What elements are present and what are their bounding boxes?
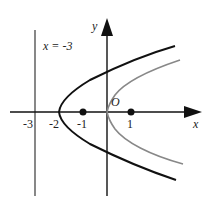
point-1	[128, 109, 135, 116]
tick-label-neg1: -1	[77, 117, 87, 131]
diagram-canvas: x = -3 y x O -3 -2 -1 1	[0, 0, 216, 206]
x-axis-label: x	[192, 117, 199, 131]
tick-label-1: 1	[127, 117, 133, 131]
y-axis-label: y	[91, 19, 98, 33]
point-neg1	[80, 109, 87, 116]
directrix-label: x = -3	[42, 39, 72, 53]
parabola-diagram: x = -3 y x O -3 -2 -1 1	[0, 0, 216, 206]
tick-label-neg2: -2	[49, 117, 59, 131]
origin-label: O	[111, 95, 120, 109]
tick-label-neg3: -3	[23, 117, 33, 131]
y-axis-arrow-icon	[101, 18, 113, 36]
parabola-black	[59, 46, 176, 180]
